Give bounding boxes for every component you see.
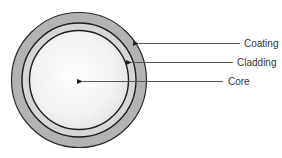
coating-label: Coating <box>244 38 278 49</box>
cladding-label: Cladding <box>237 57 276 68</box>
fiber-cross-section-diagram: Coating Cladding Core <box>0 0 282 158</box>
core-label: Core <box>228 76 250 87</box>
core-layer <box>30 31 129 130</box>
